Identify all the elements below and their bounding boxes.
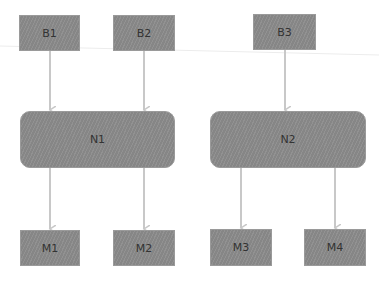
node-b1: B1 bbox=[19, 15, 80, 51]
node-n2: N2 bbox=[210, 111, 366, 168]
node-b3: B3 bbox=[253, 14, 316, 50]
node-m4: M4 bbox=[304, 229, 366, 266]
node-m3: M3 bbox=[210, 229, 272, 266]
node-b2: B2 bbox=[113, 15, 175, 51]
node-m1: M1 bbox=[20, 230, 80, 266]
node-n1: N1 bbox=[20, 111, 175, 168]
node-m2: M2 bbox=[113, 230, 175, 266]
